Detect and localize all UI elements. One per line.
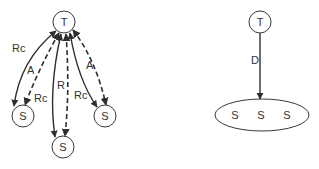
left-diagram: Rc A Rc R Rc A T S S S [12,11,116,158]
group-member-1: S [231,109,238,121]
edge-label-center-dashed: R [57,79,65,91]
edge-label-left-solid: Rc [12,42,26,54]
edge-label-d: D [251,54,259,66]
right-diagram: D T S S S [215,11,309,131]
diagram-canvas: Rc A Rc R Rc A T S S S D T [0,0,319,169]
node-t-right: T [249,11,271,33]
node-s-left-label: S [19,110,26,122]
node-t-left: T [53,11,75,33]
node-t-left-label: T [61,16,68,28]
edge-label-right-dashed: A [86,59,94,71]
node-s-right-label: S [101,110,108,122]
edge-label-left-dashed: A [27,64,35,76]
edge-label-center-solid: Rc [34,92,48,104]
node-s-bottom: S [52,136,74,158]
edge-center-dashed [65,34,68,136]
node-s-bottom-label: S [59,141,66,153]
node-s-right: S [94,105,116,127]
node-s-left: S [12,105,34,127]
group-member-3: S [283,109,290,121]
group-member-2: S [257,109,264,121]
edge-label-right-solid: Rc [74,89,88,101]
group-ellipse: S S S [215,99,309,131]
node-t-right-label: T [257,16,264,28]
